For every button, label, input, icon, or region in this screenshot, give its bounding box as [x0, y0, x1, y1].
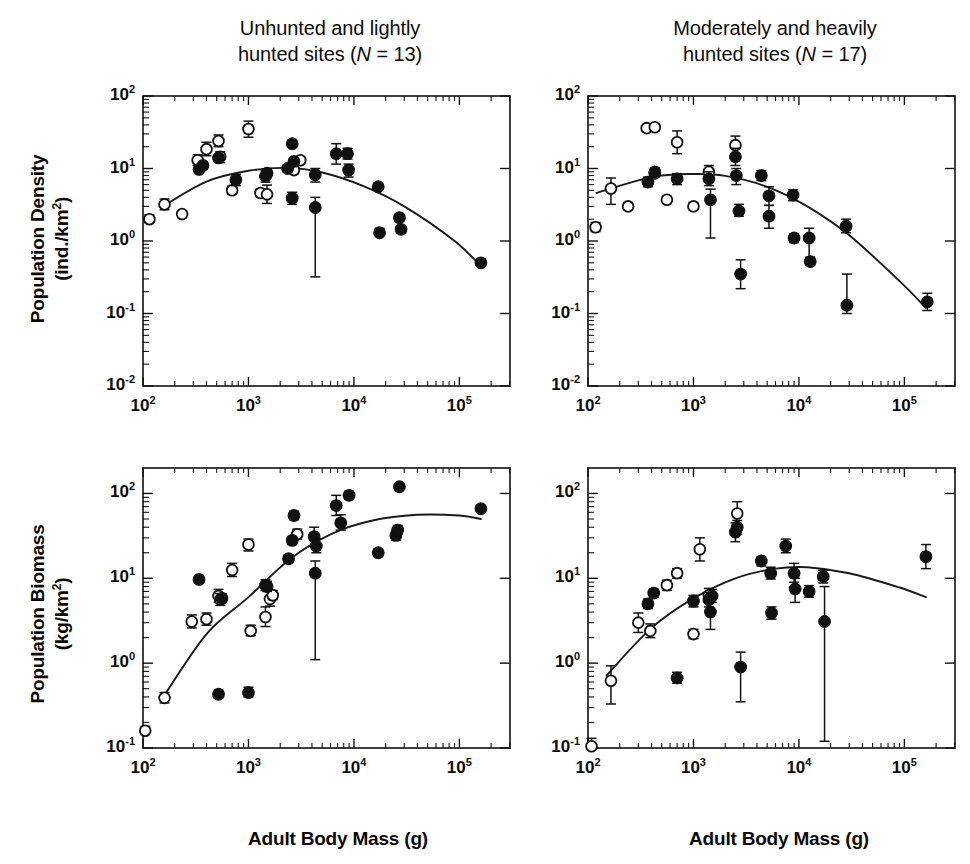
- data-point-closed: [788, 232, 800, 244]
- data-point-closed: [731, 521, 743, 533]
- series-group-biomass-unhunted: [140, 481, 487, 736]
- data-point-closed: [642, 598, 654, 610]
- data-point-closed: [243, 687, 255, 699]
- data-point-closed: [309, 202, 321, 214]
- data-point-open: [633, 617, 644, 628]
- data-point-closed: [756, 170, 768, 182]
- data-point-open: [688, 201, 699, 212]
- data-point-closed: [756, 555, 768, 567]
- data-point-closed: [705, 606, 717, 618]
- fit-curve: [596, 174, 926, 308]
- data-point-closed: [763, 190, 775, 202]
- data-point-closed: [922, 296, 934, 308]
- data-point-closed: [261, 581, 273, 593]
- data-point-closed: [671, 672, 683, 684]
- data-point-closed: [213, 152, 225, 164]
- data-point-closed: [372, 181, 384, 193]
- data-point-closed: [311, 540, 323, 552]
- data-point-closed: [731, 170, 743, 182]
- data-point-closed: [648, 587, 660, 599]
- data-point-open: [201, 144, 212, 155]
- data-point-open: [590, 222, 601, 233]
- data-point-open: [694, 544, 705, 555]
- data-point-open: [662, 194, 673, 205]
- data-point-open: [144, 214, 155, 225]
- data-point-open: [662, 580, 673, 591]
- data-point-closed: [804, 256, 816, 268]
- data-point-closed: [703, 173, 715, 185]
- data-point-closed: [817, 571, 829, 583]
- data-point-closed: [374, 227, 386, 239]
- data-point-closed: [193, 574, 205, 586]
- data-point-open: [732, 508, 743, 519]
- data-point-open: [227, 565, 238, 576]
- data-point-closed: [309, 169, 321, 181]
- data-point-closed: [671, 173, 683, 185]
- data-point-open: [262, 189, 273, 200]
- data-point-closed: [688, 595, 700, 607]
- series-group-biomass-hunted: [586, 502, 932, 752]
- data-point-closed: [343, 164, 355, 176]
- data-point-closed: [788, 567, 800, 579]
- data-point-closed: [819, 616, 831, 628]
- data-point-closed: [780, 540, 792, 552]
- data-point-open: [260, 612, 271, 623]
- data-point-closed: [230, 174, 242, 186]
- data-point-closed: [706, 590, 718, 602]
- series-group-density-hunted: [590, 122, 933, 314]
- data-point-closed: [216, 593, 228, 605]
- data-point-closed: [840, 220, 852, 232]
- data-point-closed: [395, 224, 407, 236]
- data-point-open: [201, 614, 212, 625]
- plot-canvas: [0, 0, 970, 864]
- data-point-open: [649, 122, 660, 133]
- data-point-closed: [394, 481, 406, 493]
- data-point-closed: [286, 138, 298, 150]
- data-point-closed: [288, 510, 300, 522]
- data-point-closed: [920, 551, 932, 563]
- data-point-closed: [841, 299, 853, 311]
- data-point-closed: [343, 490, 355, 502]
- data-point-closed: [342, 148, 354, 160]
- fit-curve: [165, 514, 481, 695]
- series-group-density-unhunted: [144, 121, 487, 277]
- data-point-open: [159, 199, 170, 210]
- data-point-open: [623, 201, 634, 212]
- data-point-closed: [733, 205, 745, 217]
- data-point-open: [688, 629, 699, 640]
- data-point-closed: [286, 535, 298, 547]
- data-point-closed: [392, 524, 404, 536]
- fit-curve: [607, 567, 926, 675]
- data-point-closed: [763, 210, 775, 222]
- data-point-open: [227, 185, 238, 196]
- data-point-closed: [765, 567, 777, 579]
- data-point-closed: [335, 517, 347, 529]
- data-point-closed: [330, 500, 342, 512]
- data-point-open: [672, 137, 683, 148]
- data-point-closed: [803, 586, 815, 598]
- data-point-open: [140, 725, 151, 736]
- data-point-open: [606, 183, 617, 194]
- data-point-open: [586, 741, 597, 752]
- data-point-closed: [730, 151, 742, 163]
- data-point-closed: [309, 567, 321, 579]
- data-point-closed: [735, 268, 747, 280]
- data-point-closed: [261, 167, 273, 179]
- data-point-closed: [766, 607, 778, 619]
- fit-curve: [165, 168, 481, 266]
- data-point-closed: [372, 547, 384, 559]
- data-point-closed: [197, 160, 209, 172]
- data-point-open: [672, 568, 683, 579]
- data-point-open: [186, 616, 197, 627]
- data-point-closed: [330, 148, 342, 160]
- data-point-closed: [787, 189, 799, 201]
- data-point-closed: [735, 661, 747, 673]
- data-point-closed: [475, 257, 487, 269]
- data-point-open: [606, 675, 617, 686]
- data-point-open: [177, 209, 188, 220]
- data-point-open: [645, 625, 656, 636]
- data-point-closed: [789, 583, 801, 595]
- data-point-closed: [286, 192, 298, 204]
- data-point-closed: [213, 688, 225, 700]
- data-point-closed: [283, 553, 295, 565]
